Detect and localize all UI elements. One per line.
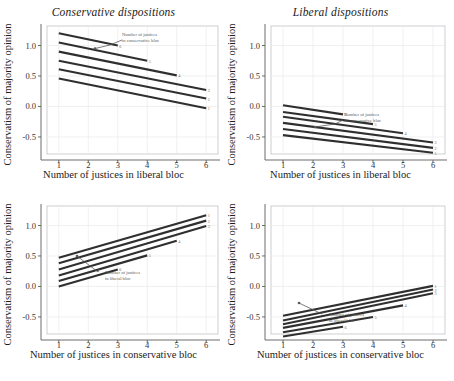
x-tick-label: 5 bbox=[401, 340, 405, 350]
series-end-label: 6 bbox=[119, 267, 121, 272]
x-tick-label: 6 bbox=[204, 160, 208, 170]
series-end-label: 1 bbox=[208, 213, 210, 218]
series-end-label: 5 bbox=[375, 314, 377, 319]
series-end-label: 4 bbox=[178, 73, 180, 78]
series-end-label: 6 bbox=[119, 43, 121, 48]
series-end-label: 4 bbox=[405, 303, 407, 308]
series-end-label: 3 bbox=[435, 291, 437, 296]
x-tick-label: 5 bbox=[175, 340, 179, 350]
x-tick-label: 5 bbox=[175, 160, 179, 170]
panel-top-right: Liberal dispositionsConservatism of majo… bbox=[227, 0, 454, 190]
y-tick-label: 0.5 bbox=[3, 251, 36, 261]
y-tick-label: -0.5 bbox=[227, 312, 260, 322]
series-annotation: Number of justicesin liberal bloc bbox=[105, 270, 140, 281]
plot-area bbox=[0, 0, 227, 191]
panel-top-left: Conservative dispositionsConservatism of… bbox=[0, 0, 227, 190]
x-tick-label: 1 bbox=[281, 160, 285, 170]
series-end-label: 5 bbox=[375, 122, 377, 127]
x-tick-label: 2 bbox=[86, 340, 90, 350]
panel-bottom-left: Conservatism of majority opinionNumber o… bbox=[0, 190, 227, 381]
x-tick-label: 4 bbox=[371, 340, 375, 350]
series-end-label: 6 bbox=[345, 112, 347, 117]
y-tick-label: 1.0 bbox=[227, 41, 260, 51]
y-tick-label: 0.0 bbox=[227, 101, 260, 111]
series-end-label: 5 bbox=[149, 58, 151, 63]
annotation-arrow-head bbox=[94, 47, 97, 50]
x-tick-label: 4 bbox=[371, 160, 375, 170]
annotation-arrow-head bbox=[76, 255, 79, 258]
series-end-label: 3 bbox=[208, 224, 210, 229]
x-tick-label: 6 bbox=[431, 160, 435, 170]
x-tick-label: 1 bbox=[57, 340, 61, 350]
y-tick-label: 0.0 bbox=[3, 101, 36, 111]
x-tick-label: 4 bbox=[145, 160, 149, 170]
y-tick-label: 0.5 bbox=[227, 71, 260, 81]
y-tick-label: 1.0 bbox=[227, 221, 260, 231]
x-tick-label: 1 bbox=[57, 160, 61, 170]
annotation-arrow-head bbox=[314, 126, 317, 129]
x-tick-label: 2 bbox=[311, 340, 315, 350]
annotation-arrow-head bbox=[298, 302, 301, 305]
x-tick-label: 1 bbox=[281, 340, 285, 350]
series-annotation: Number of justicesin conservative bloc bbox=[122, 32, 159, 43]
y-tick-label: 0.5 bbox=[227, 251, 260, 261]
x-tick-label: 2 bbox=[86, 160, 90, 170]
series-end-label: 4 bbox=[178, 238, 180, 243]
series-annotation: Number of justicesin liberal bloc bbox=[329, 312, 364, 323]
x-tick-label: 6 bbox=[431, 340, 435, 350]
plot-area bbox=[227, 190, 454, 381]
y-tick-label: 0.0 bbox=[227, 281, 260, 291]
x-tick-label: 2 bbox=[311, 160, 315, 170]
panel-grid: Conservative dispositionsConservatism of… bbox=[0, 0, 454, 381]
y-tick-label: 0.0 bbox=[3, 281, 36, 291]
x-tick-label: 3 bbox=[341, 340, 345, 350]
y-tick-label: 1.0 bbox=[3, 221, 36, 231]
y-tick-label: 0.5 bbox=[3, 71, 36, 81]
panel-bottom-right: Conservatism of majority opinionNumber o… bbox=[227, 190, 454, 381]
y-tick-label: -0.5 bbox=[3, 132, 36, 142]
series-end-label: 2 bbox=[208, 218, 210, 223]
x-tick-label: 4 bbox=[145, 340, 149, 350]
series-end-label: 4 bbox=[405, 131, 407, 136]
series-end-label: 1 bbox=[435, 150, 437, 155]
x-tick-label: 3 bbox=[341, 160, 345, 170]
y-tick-label: -0.5 bbox=[227, 132, 260, 142]
y-tick-label: 1.0 bbox=[3, 41, 36, 51]
x-tick-label: 3 bbox=[116, 340, 120, 350]
x-tick-label: 5 bbox=[401, 160, 405, 170]
series-end-label: 6 bbox=[345, 324, 347, 329]
x-tick-label: 6 bbox=[204, 340, 208, 350]
y-tick-label: -0.5 bbox=[3, 312, 36, 322]
x-tick-label: 3 bbox=[116, 160, 120, 170]
series-end-label: 3 bbox=[435, 140, 437, 145]
series-end-label: 3 bbox=[208, 88, 210, 93]
series-end-label: 5 bbox=[149, 253, 151, 258]
series-end-label: 1 bbox=[208, 106, 210, 111]
series-end-label: 2 bbox=[208, 96, 210, 101]
